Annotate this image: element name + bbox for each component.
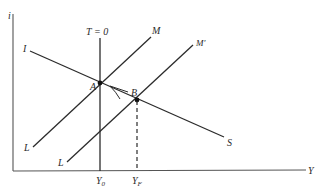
y-axis-label: i <box>8 10 11 21</box>
lm-curve-start-label: L <box>23 142 30 153</box>
point-a <box>98 81 103 86</box>
lm-curve-end-label: M <box>151 25 161 36</box>
is-curve-end-label: S <box>227 137 232 148</box>
lm-shifted-curve <box>67 45 193 162</box>
y0-label: Y0 <box>96 175 106 188</box>
is-lm-diagram: i Y T = 0 I S L M L M′ A B Y0 YF <box>0 0 320 188</box>
is-curve-start-label: I <box>22 43 27 54</box>
is-curve <box>30 51 224 137</box>
lm-shifted-end-label: M′ <box>195 38 206 48</box>
x-axis-label: Y <box>308 165 315 176</box>
x-axis <box>13 170 306 171</box>
yf-label: YF <box>132 175 143 188</box>
lm-shifted-start-label: L <box>57 157 64 168</box>
t-zero-label: T = 0 <box>86 26 108 37</box>
point-b-label: B <box>131 87 137 98</box>
point-a-label: A <box>89 81 97 92</box>
